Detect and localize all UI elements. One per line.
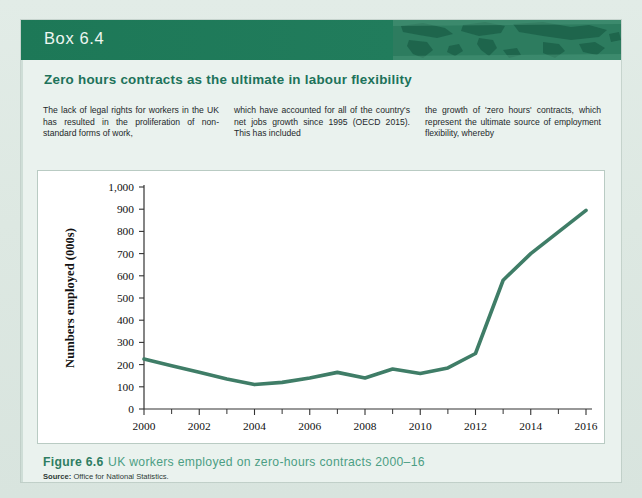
body-column-3: the growth of 'zero hours' contracts, wh… — [425, 105, 601, 140]
x-tick-label: 2002 — [188, 420, 211, 432]
figure-number: Figure 6.6 — [43, 455, 104, 469]
x-tick-label: 2016 — [575, 420, 598, 432]
box-subtitle: Zero hours contracts as the ultimate in … — [44, 72, 600, 87]
body-column-2: which have accounted for all of the coun… — [234, 105, 410, 140]
y-tick-label: 1,000 — [108, 181, 134, 193]
y-tick-label: 800 — [117, 225, 134, 237]
figure-source-text: Office for National Statistics. — [73, 472, 168, 481]
y-tick-label: 600 — [117, 270, 134, 282]
x-tick-label: 2004 — [243, 420, 266, 432]
world-map-decoration-icon — [393, 20, 621, 60]
box-label: Box 6.4 — [44, 29, 104, 48]
body-columns: The lack of legal rights for workers in … — [43, 105, 603, 140]
line-chart: 01002003004005006007008009001,0002000200… — [38, 171, 602, 441]
y-tick-label: 700 — [117, 248, 134, 260]
y-axis-title: Numbers employed (000s) — [63, 228, 77, 368]
y-tick-label: 100 — [117, 381, 134, 393]
textbook-box: Box 6.4 Zero hours contracts as the ulti… — [21, 20, 621, 482]
x-tick-label: 2010 — [409, 420, 432, 432]
figure-caption: Figure 6.6 UK workers employed on zero-h… — [43, 452, 603, 481]
y-tick-label: 400 — [117, 314, 134, 326]
figure-source: Source: Office for National Statistics. — [43, 472, 603, 481]
box-header-band: Box 6.4 — [21, 20, 621, 60]
x-tick-label: 2014 — [519, 420, 542, 432]
y-tick-label: 900 — [117, 203, 134, 215]
x-tick-label: 2008 — [354, 420, 377, 432]
y-tick-label: 300 — [117, 336, 134, 348]
figure-title: UK workers employed on zero-hours contra… — [108, 455, 425, 469]
x-tick-label: 2006 — [298, 420, 321, 432]
page-background: Box 6.4 Zero hours contracts as the ulti… — [0, 0, 642, 498]
body-column-1: The lack of legal rights for workers in … — [43, 105, 219, 140]
figure-source-label: Source: — [43, 472, 71, 481]
x-tick-label: 2012 — [464, 420, 487, 432]
chart-panel: 01002003004005006007008009001,0002000200… — [37, 170, 605, 444]
y-tick-label: 200 — [117, 359, 134, 371]
y-tick-label: 0 — [128, 403, 134, 415]
y-tick-label: 500 — [117, 292, 134, 304]
x-tick-label: 2000 — [133, 420, 156, 432]
